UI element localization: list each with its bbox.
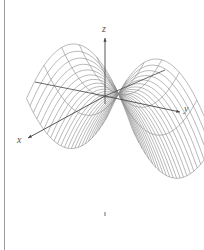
x-axis-label: x xyxy=(17,135,21,145)
y-axis-label: y xyxy=(184,104,188,114)
saddle-surface-plot xyxy=(0,0,204,250)
figure-frame: z y x xyxy=(0,0,204,250)
z-axis-label: z xyxy=(102,24,106,34)
